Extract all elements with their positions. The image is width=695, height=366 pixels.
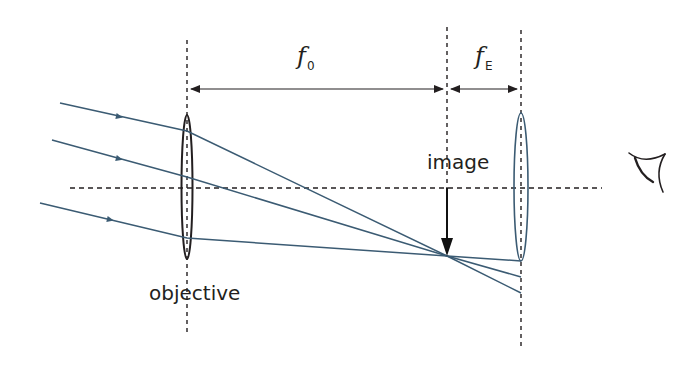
telescope-diagram: f0 fE image objective: [0, 0, 695, 366]
ray-1: [60, 103, 521, 293]
ray-direction-arrows: [106, 113, 123, 223]
focal-symbol: f: [475, 42, 484, 70]
objective-label: objective: [149, 283, 240, 303]
diagram-canvas: [0, 0, 695, 366]
eye-icon: [629, 153, 665, 192]
light-rays: [40, 103, 521, 293]
ray-3: [40, 203, 521, 261]
focal-subscript: 0: [307, 59, 315, 73]
eyepiece-focal-length-label: fE: [475, 44, 492, 72]
focal-subscript: E: [485, 59, 493, 73]
image-label: image: [427, 152, 489, 172]
objective-focal-length-label: f0: [297, 44, 315, 72]
focal-symbol: f: [297, 42, 306, 70]
